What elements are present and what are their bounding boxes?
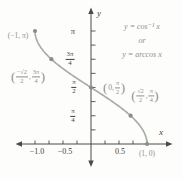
fraction-denominator: 4 (150, 97, 153, 104)
fraction-denominator: 2 (20, 78, 23, 85)
x-tick-label-neg-1: −1.0 (30, 148, 45, 156)
y-tick-label-pi-4: π4 (70, 108, 75, 124)
close-paren: ) (41, 71, 45, 83)
title-line-3: y = arccos x (122, 48, 162, 62)
x-tick-label-neg-05: −0.5 (58, 148, 73, 156)
data-point (129, 114, 133, 118)
y-tick-label-pi: π (71, 27, 75, 36)
y-axis-ticks (91, 31, 96, 130)
x-tick-label-pos-05: 0.5 (115, 148, 125, 156)
fraction-numerator: 3π (32, 69, 40, 77)
point-label-neg-sqrt2-2-3pi-4: ( −√22 , 3π4 ) (11, 69, 45, 84)
fraction-denominator: 2 (139, 97, 142, 104)
fraction-denominator: 4 (34, 78, 37, 85)
point-label-neg1-pi: (−1, π) (8, 32, 29, 40)
fraction-numerator: π (115, 80, 120, 88)
y-tick-label-pi-2: π2 (71, 79, 76, 95)
fraction-denominator: 4 (68, 60, 71, 68)
fraction-denominator: 4 (71, 117, 74, 125)
y-tick-label-3pi-4: 3π4 (66, 51, 75, 67)
open-paren: ( (131, 90, 135, 102)
fraction-numerator: √2 (136, 88, 145, 96)
y-axis-up-arrowhead-icon (88, 8, 93, 15)
y-axis-label: y (97, 9, 101, 18)
x-axis-left-arrowhead-icon (16, 141, 23, 146)
fraction-numerator: π (70, 108, 75, 117)
data-point (89, 85, 93, 89)
point-label-1-0: (1, 0) (139, 150, 155, 158)
title-line-2: or (122, 34, 162, 48)
fraction-numerator: π (149, 88, 154, 96)
coordinate-text: 0, (108, 84, 115, 92)
fraction-numerator: π (71, 79, 76, 88)
open-paren: ( (11, 71, 15, 83)
point-label-0-pi-2: ( 0, π2 ) (103, 80, 125, 95)
data-point (33, 29, 37, 33)
figure-title: y = cos⁻¹ x or y = arccos x (122, 20, 162, 62)
data-point (145, 142, 149, 146)
point-label-sqrt2-2-pi-4: ( √22 , π4 ) (131, 88, 158, 103)
fraction-denominator: 2 (116, 89, 119, 96)
open-paren: ( (103, 82, 107, 94)
y-axis-down-arrowhead-icon (88, 161, 93, 168)
x-axis-right-arrowhead-icon (166, 141, 173, 146)
x-axis-label: x (159, 128, 163, 137)
fraction-numerator: 3π (66, 51, 75, 60)
close-paren: ) (154, 90, 158, 102)
fraction-numerator: −√2 (16, 69, 28, 77)
close-paren: ) (121, 82, 125, 94)
data-point (49, 57, 53, 61)
arccos-figure: y x π 3π4 π2 π4 −1.0 −0.5 0.5 (−1, π) ( … (0, 0, 183, 180)
fraction-denominator: 2 (72, 88, 75, 96)
title-line-1: y = cos⁻¹ x (122, 20, 162, 34)
